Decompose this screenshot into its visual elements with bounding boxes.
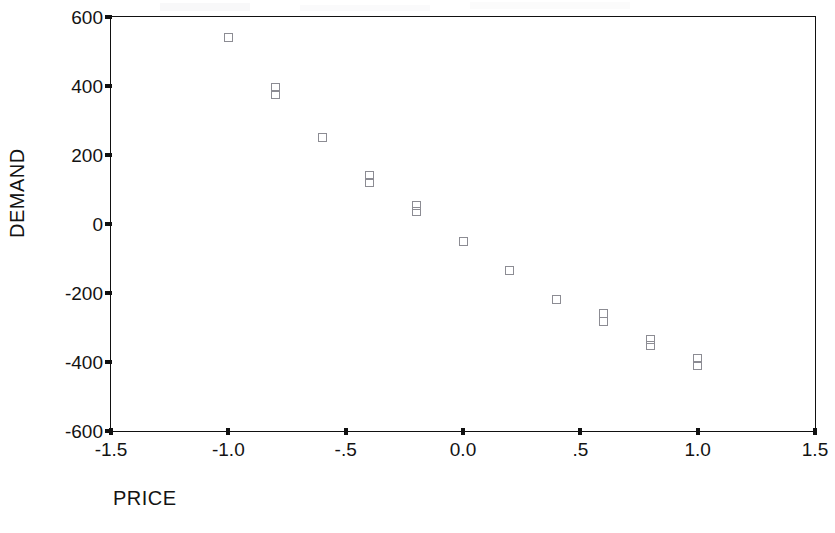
plot-area (111, 17, 815, 431)
data-point-marker (318, 133, 327, 142)
y-axis-tick-label: -400 (65, 353, 103, 372)
y-axis-tick (105, 222, 112, 226)
y-axis-tick-label: -600 (65, 422, 103, 441)
y-axis-tick (105, 291, 112, 295)
data-point-marker (693, 361, 702, 370)
y-axis-tick-label: 400 (71, 77, 103, 96)
x-axis-tick (344, 428, 348, 435)
x-axis-tick-label: -1.5 (95, 440, 128, 459)
scatter-plot-figure: DEMAND PRICE 6004002000-200-400-600-1.5-… (0, 0, 835, 533)
scan-artifact (470, 2, 630, 9)
y-axis-tick (105, 360, 112, 364)
x-axis-tick (226, 428, 230, 435)
x-axis-tick (696, 428, 700, 435)
y-axis-tick-label: 200 (71, 146, 103, 165)
x-axis-tick (813, 428, 817, 435)
data-point-marker (271, 90, 280, 99)
y-axis-tick-label: -200 (65, 284, 103, 303)
data-point-marker (412, 207, 421, 216)
x-axis-tick-label: .5 (572, 440, 588, 459)
y-axis-tick (105, 15, 112, 19)
data-point-marker (459, 237, 468, 246)
data-point-marker (224, 33, 233, 42)
y-axis-tick (105, 84, 112, 88)
data-point-marker (365, 178, 374, 187)
y-axis-title: DEMAND (6, 148, 29, 238)
scan-artifact (300, 5, 430, 11)
x-axis-tick (578, 428, 582, 435)
x-axis-tick (109, 428, 113, 435)
x-axis-tick-label: 1.5 (802, 440, 828, 459)
y-axis-tick-label: 0 (92, 215, 103, 234)
plot-frame: 6004002000-200-400-600-1.5-1.0-.50.0.51.… (110, 16, 816, 432)
data-point-marker (552, 295, 561, 304)
x-axis-tick-label: 1.0 (684, 440, 710, 459)
data-point-marker (505, 266, 514, 275)
y-axis-tick-label: 600 (71, 8, 103, 27)
scan-artifact (160, 3, 250, 11)
x-axis-tick (461, 428, 465, 435)
data-point-marker (646, 341, 655, 350)
data-point-marker (599, 317, 608, 326)
x-axis-tick-label: 0.0 (450, 440, 476, 459)
x-axis-tick-label: -1.0 (212, 440, 245, 459)
y-axis-tick (105, 153, 112, 157)
x-axis-title: PRICE (113, 487, 177, 510)
x-axis-tick-label: -.5 (335, 440, 357, 459)
